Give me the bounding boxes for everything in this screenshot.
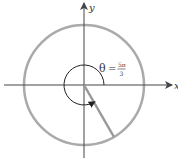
unit-circle-diagram: x y θ = 5π 3: [0, 0, 178, 159]
fraction-numerator: 5π: [118, 61, 126, 68]
y-axis-label: y: [88, 2, 95, 13]
x-axis-label: x: [174, 80, 178, 91]
terminal-side: [84, 85, 114, 137]
equals-sign: =: [108, 63, 116, 74]
theta-symbol: θ: [99, 62, 106, 75]
angle-label: θ = 5π 3: [99, 61, 126, 77]
fraction-denominator: 3: [120, 70, 124, 77]
